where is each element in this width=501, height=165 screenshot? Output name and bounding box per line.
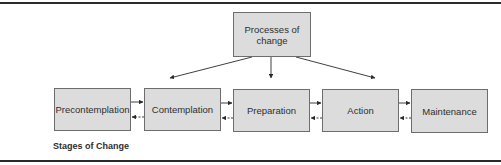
node-processes-of-change: Processes of change bbox=[233, 12, 311, 57]
node-label: Contemplation bbox=[152, 104, 213, 115]
node-preparation: Preparation bbox=[233, 89, 310, 132]
node-precontemplation: Precontemplation bbox=[54, 88, 131, 131]
diagram-caption: Stages of Change bbox=[53, 141, 129, 151]
arrow-processes-to-contemplation bbox=[170, 57, 252, 78]
node-action: Action bbox=[322, 89, 399, 132]
node-label: Preparation bbox=[247, 105, 296, 116]
arrow-processes-to-action bbox=[296, 57, 375, 78]
node-label: Maintenance bbox=[422, 106, 476, 117]
node-label: Processes of change bbox=[240, 24, 304, 46]
node-label: Precontemplation bbox=[56, 104, 130, 115]
node-contemplation: Contemplation bbox=[144, 88, 221, 131]
node-label: Action bbox=[347, 105, 373, 116]
node-maintenance: Maintenance bbox=[411, 89, 488, 133]
